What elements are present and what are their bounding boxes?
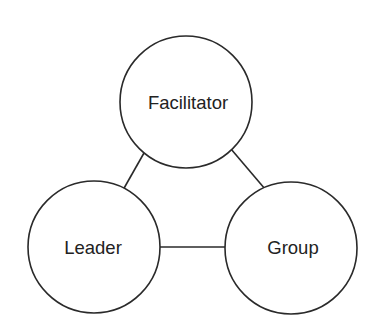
triad-diagram: Facilitator Leader Group — [0, 0, 377, 334]
leader-label: Leader — [64, 237, 122, 258]
edge-facilitator-group — [231, 149, 265, 189]
node-group: Group — [225, 182, 357, 314]
group-label: Group — [267, 237, 318, 258]
node-facilitator: Facilitator — [120, 36, 252, 168]
node-leader: Leader — [28, 181, 160, 313]
facilitator-label: Facilitator — [148, 92, 228, 113]
edge-facilitator-leader — [123, 153, 144, 190]
